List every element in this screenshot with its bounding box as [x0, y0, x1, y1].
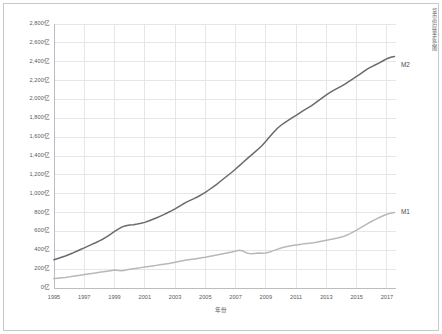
- side-caption: 货币供应量走势图: [424, 8, 436, 50]
- x-tick-label: 1997: [78, 295, 90, 301]
- x-tick-label: 2011: [290, 295, 302, 301]
- x-axis-tick-labels: 1995199719992001200320052007200920112013…: [0, 0, 442, 334]
- x-tick-label: 2001: [139, 295, 151, 301]
- x-tick-label: 2005: [199, 295, 211, 301]
- x-tick-label: 2003: [169, 295, 181, 301]
- x-tick-label: 2017: [381, 295, 393, 301]
- x-tick-label: 2009: [260, 295, 272, 301]
- x-axis-title: 年份: [215, 306, 227, 314]
- series-label-m1: M1: [401, 209, 410, 215]
- x-tick-label: 2013: [320, 295, 332, 301]
- series-label-m2: M2: [401, 62, 410, 68]
- chart-figure: 0亿200亿400亿600亿800亿1,000亿1,200亿1,400亿1,60…: [0, 0, 442, 334]
- x-tick-label: 2015: [350, 295, 362, 301]
- x-tick-label: 1995: [48, 295, 60, 301]
- x-tick-label: 2007: [229, 295, 241, 301]
- x-tick-label: 1999: [108, 295, 120, 301]
